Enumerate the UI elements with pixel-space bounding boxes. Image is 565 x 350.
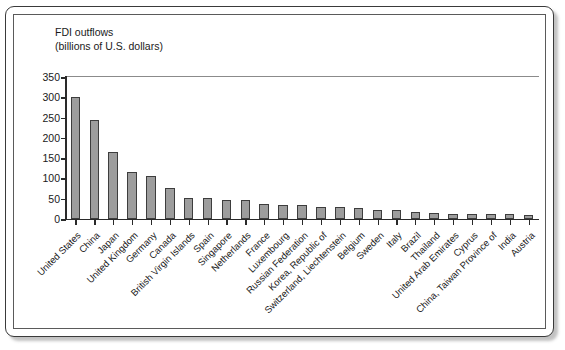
y-tick-label: 50 xyxy=(48,193,60,205)
x-tick-mark xyxy=(113,220,114,225)
bar[interactable] xyxy=(165,188,175,219)
bar[interactable] xyxy=(278,205,288,219)
bar[interactable] xyxy=(127,172,137,219)
bar[interactable] xyxy=(505,214,515,219)
x-tick-mark xyxy=(264,220,265,225)
bar[interactable] xyxy=(259,204,269,219)
bars-container xyxy=(66,77,538,219)
bar[interactable] xyxy=(429,213,439,219)
y-tick-label: 100 xyxy=(42,172,60,184)
bar[interactable] xyxy=(297,205,307,219)
x-tick-mark xyxy=(189,220,190,225)
x-tick-mark xyxy=(226,220,227,225)
bar[interactable] xyxy=(184,198,194,219)
x-tick-mark xyxy=(283,220,284,225)
y-tick-label: 350 xyxy=(42,71,60,83)
chart-title-line2: (billions of U.S. dollars) xyxy=(55,40,163,52)
y-tick-label: 150 xyxy=(42,152,60,164)
x-tick-mark xyxy=(302,220,303,225)
bar[interactable] xyxy=(71,97,81,219)
x-tick-mark xyxy=(434,220,435,225)
bar[interactable] xyxy=(90,120,100,219)
bar[interactable] xyxy=(524,215,534,219)
x-tick-mark xyxy=(151,220,152,225)
y-tick-label: 200 xyxy=(42,132,60,144)
bar[interactable] xyxy=(108,152,118,219)
bar[interactable] xyxy=(467,214,477,219)
x-tick-mark xyxy=(75,220,76,225)
bar[interactable] xyxy=(354,208,364,219)
bar[interactable] xyxy=(316,207,326,219)
bar[interactable] xyxy=(392,210,402,219)
x-tick-mark xyxy=(378,220,379,225)
x-tick-mark xyxy=(340,220,341,225)
x-tick-mark xyxy=(170,220,171,225)
y-tick-label: 0 xyxy=(54,213,60,225)
bar[interactable] xyxy=(411,212,421,219)
y-tick-label: 300 xyxy=(42,91,60,103)
x-tick-mark xyxy=(472,220,473,225)
x-tick-mark xyxy=(453,220,454,225)
bar[interactable] xyxy=(486,214,496,219)
x-tick-mark xyxy=(132,220,133,225)
chart-title: FDI outflows(billions of U.S. dollars) xyxy=(55,25,163,53)
x-tick-mark xyxy=(529,220,530,225)
bar[interactable] xyxy=(203,198,213,219)
x-tick-mark xyxy=(491,220,492,225)
bar[interactable] xyxy=(373,210,383,219)
bar[interactable] xyxy=(146,176,156,219)
bar[interactable] xyxy=(222,200,232,219)
x-tick-mark xyxy=(396,220,397,225)
chart-title-line1: FDI outflows xyxy=(55,26,113,38)
bar[interactable] xyxy=(335,207,345,219)
bar[interactable] xyxy=(241,200,251,219)
x-tick-mark xyxy=(321,220,322,225)
y-tick-mark xyxy=(61,219,66,221)
x-tick-mark xyxy=(510,220,511,225)
x-tick-mark xyxy=(208,220,209,225)
bar[interactable] xyxy=(448,214,458,219)
x-tick-mark xyxy=(359,220,360,225)
x-tick-mark xyxy=(415,220,416,225)
x-tick-mark xyxy=(94,220,95,225)
x-tick-mark xyxy=(245,220,246,225)
y-axis-labels: 050100150200250300350 xyxy=(26,77,60,219)
y-tick-label: 250 xyxy=(42,112,60,124)
